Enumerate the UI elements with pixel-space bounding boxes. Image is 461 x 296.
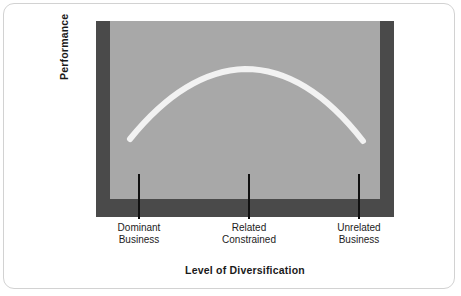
curve-path	[130, 69, 363, 141]
x-axis-title: Level of Diversification	[96, 264, 394, 276]
plot-frame	[96, 21, 394, 217]
figure-card: Performance Dominant Business Related Co…	[3, 3, 455, 289]
plot-area	[110, 21, 380, 199]
y-axis-title: Performance	[56, 0, 72, 80]
performance-curve	[110, 21, 380, 199]
tick-label-line-2: Constrained	[197, 234, 301, 246]
tick-label-line-1: Related	[232, 222, 266, 233]
tick-label-line-2: Business	[307, 234, 411, 246]
tick-label-line-2: Business	[87, 234, 191, 246]
x-tick-label-unrelated-business: Unrelated Business	[307, 222, 411, 245]
x-tick-label-related-constrained: Related Constrained	[197, 222, 301, 245]
x-tick-related-constrained	[248, 174, 250, 219]
x-tick-dominant-business	[138, 174, 140, 219]
x-tick-label-dominant-business: Dominant Business	[87, 222, 191, 245]
tick-label-line-1: Dominant	[118, 222, 161, 233]
x-tick-unrelated-business	[358, 174, 360, 219]
tick-label-line-1: Unrelated	[337, 222, 380, 233]
